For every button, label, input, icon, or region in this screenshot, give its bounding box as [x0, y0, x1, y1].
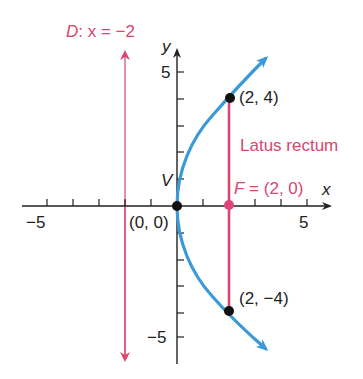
parabola-lower: [177, 206, 266, 349]
vertex-label: V: [161, 172, 172, 189]
y-axis-label: y: [162, 38, 171, 55]
latus-top-point: [225, 93, 235, 103]
y-tick-label-5: 5: [161, 64, 170, 81]
x-axis-label: x: [322, 181, 331, 198]
focus-equation: = (2, 0): [244, 179, 303, 198]
latus-rectum-label: Latus rectum: [240, 137, 338, 154]
focus-point: [224, 200, 234, 210]
x-tick-label-5: 5: [299, 214, 308, 231]
latus-bottom-point: [224, 306, 234, 316]
point-bottom-label: (2, −4): [239, 290, 289, 307]
point-top-label: (2, 4): [239, 89, 279, 106]
x-tick-label-neg5: −5: [26, 214, 45, 231]
vertex-point: [172, 201, 182, 211]
focus-letter: F: [234, 179, 244, 198]
vertex-coords-label: (0, 0): [129, 214, 169, 231]
directrix-letter: D: [66, 22, 78, 41]
y-tick-label-neg5: −5: [147, 329, 166, 346]
directrix-label: D: x = −2: [66, 23, 135, 40]
focus-label: F = (2, 0): [234, 180, 303, 197]
parabola-diagram: [0, 0, 363, 379]
directrix-equation: : x = −2: [78, 22, 135, 41]
